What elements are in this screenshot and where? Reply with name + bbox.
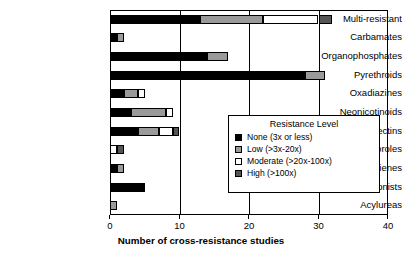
legend-swatch-icon	[235, 170, 242, 177]
bar-segment-high	[117, 145, 124, 154]
bar-segment-none	[110, 52, 207, 61]
bar-segment-high	[319, 15, 333, 24]
bar-segment-high	[173, 127, 180, 136]
legend: Resistance Level None (3x or less)Low (>…	[228, 115, 380, 193]
category-label-carbamates: Carbamates	[296, 32, 402, 42]
bar-segment-none	[110, 89, 124, 98]
bar-row	[0, 33, 278, 42]
legend-swatch-icon	[235, 134, 242, 141]
bar-segment-low	[110, 201, 117, 210]
bar-segment-low	[138, 127, 159, 136]
x-tick-40	[387, 215, 388, 219]
bar-segment-low	[117, 33, 124, 42]
x-tick-label-0: 0	[95, 220, 125, 231]
bar-segment-low	[117, 164, 124, 173]
bar-segment-low	[305, 71, 326, 80]
bar-segment-moderate	[159, 127, 173, 136]
bar-segment-low	[200, 15, 263, 24]
bar-row	[0, 201, 278, 210]
bar-segment-none	[110, 71, 305, 80]
x-tick-30	[318, 215, 319, 219]
category-label-oxadiazines: Oxadiazines	[296, 88, 402, 98]
legend-item-label: Moderate (>20x-100x)	[247, 156, 332, 166]
bar-row	[0, 52, 278, 61]
bar-segment-low	[124, 89, 138, 98]
x-axis-title: Number of cross-resistance studies	[0, 235, 402, 246]
category-label-organophosphates: Organophosphates	[296, 51, 402, 61]
bar-row	[0, 15, 278, 24]
bar-row	[0, 71, 278, 80]
bar-segment-none	[110, 33, 117, 42]
bar-segment-none	[110, 164, 117, 173]
bar-segment-none	[110, 127, 138, 136]
legend-rows: None (3x or less)Low (>3x-20x)Moderate (…	[229, 131, 379, 179]
bar-segment-low	[207, 52, 228, 61]
legend-swatch-icon	[235, 158, 242, 165]
category-label-acylureas: Acylureas	[296, 200, 402, 210]
legend-swatch-icon	[235, 146, 242, 153]
x-tick-10	[179, 215, 180, 219]
x-tick-20	[248, 215, 249, 219]
x-tick-label-20: 20	[234, 220, 264, 231]
bar-segment-low	[131, 108, 166, 117]
x-tick-0	[109, 215, 110, 219]
bar-segment-moderate	[110, 145, 117, 154]
legend-item-none: None (3x or less)	[229, 131, 379, 143]
legend-item-high: High (>100x)	[229, 167, 379, 179]
bar-row	[0, 89, 278, 98]
x-tick-label-40: 40	[373, 220, 403, 231]
legend-item-label: None (3x or less)	[247, 132, 312, 142]
bar-segment-none	[110, 183, 145, 192]
bar-segment-none	[110, 15, 200, 24]
x-tick-label-10: 10	[165, 220, 195, 231]
legend-title: Resistance Level	[229, 116, 379, 131]
legend-item-label: High (>100x)	[247, 168, 296, 178]
bar-segment-moderate	[138, 89, 145, 98]
x-tick-label-30: 30	[304, 220, 334, 231]
legend-item-label: Low (>3x-20x)	[247, 144, 302, 154]
bar-segment-none	[110, 108, 131, 117]
legend-item-moderate: Moderate (>20x-100x)	[229, 155, 379, 167]
bar-segment-moderate	[263, 15, 319, 24]
bar-segment-moderate	[166, 108, 173, 117]
legend-item-low: Low (>3x-20x)	[229, 143, 379, 155]
